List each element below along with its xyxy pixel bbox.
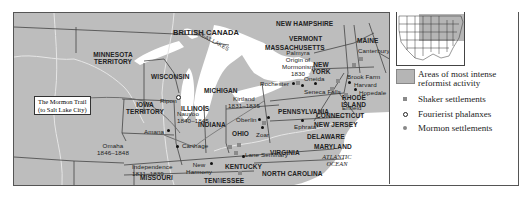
label-seneca-falls: Seneca Falls (304, 88, 341, 95)
mormon-marker (267, 116, 270, 119)
marker (242, 155, 245, 158)
mormon-marker (301, 84, 304, 87)
shaker-marker (352, 63, 356, 67)
mormon-marker (176, 145, 179, 148)
gray-square-icon (403, 97, 407, 101)
label-carthage: Carthage (182, 142, 208, 149)
label-ripon: Ripon (160, 97, 177, 104)
label-enfield: Enfield (342, 104, 362, 111)
label-tennessee: TENNESSEE (204, 177, 244, 184)
label-lane-seminary: Lane Seminary (245, 151, 288, 158)
label-vermont: VERMONT (289, 35, 322, 42)
marker (210, 162, 213, 165)
label-brook-farm: Brook Farm (347, 73, 380, 80)
label-independence: Independence 1831–1839 (132, 163, 172, 177)
shaker-marker (237, 143, 241, 147)
label-oberlin: Oberlin (236, 116, 257, 123)
shaker-marker (296, 81, 300, 85)
legend-panel: Areas of most intense reformist activity… (389, 12, 518, 184)
inset-us-map (396, 12, 465, 66)
gray-dot-icon (403, 126, 407, 130)
open-circle-icon (403, 112, 408, 117)
label-new-hampshire: NEW HAMPSHIRE (276, 20, 333, 27)
label-north-carolina: NORTH CAROLINA (262, 170, 323, 177)
shaded-area-swatch-icon (396, 69, 415, 84)
marker (354, 88, 357, 91)
label-maryland: MARYLAND (314, 143, 352, 150)
marker (261, 126, 264, 129)
shaker-marker (330, 87, 334, 91)
marker (258, 118, 261, 121)
label-omaha: Omaha 1846–1848 (96, 142, 130, 156)
fourierist-marker (348, 81, 351, 84)
shaker-marker (238, 171, 242, 175)
label-kentucky: KENTUCKY (225, 163, 262, 170)
us-inset-svg (397, 12, 464, 65)
label-delaware: DELAWARE (307, 133, 345, 140)
label-kirtland: Kirtland 1831–1835 (226, 95, 262, 109)
shaker-marker (262, 121, 266, 125)
mormon-marker (314, 82, 317, 85)
fourierist-marker (176, 95, 181, 100)
label-harvard: Harvard (354, 81, 377, 88)
label-zoar: Zoar (256, 131, 269, 138)
label-ohio: OHIO (232, 130, 249, 137)
label-hopedale: Hopedale (359, 89, 386, 96)
label-arkansas: ARKANSAS (139, 184, 177, 186)
label-amana: Amana (144, 128, 164, 135)
label-new-jersey: NEW JERSEY (314, 121, 358, 128)
marker (301, 119, 304, 122)
shaker-marker (336, 79, 340, 83)
shaker-marker (234, 151, 238, 155)
label-wisconsin: WISCONSIN (151, 73, 189, 80)
marker (167, 129, 170, 132)
label-minnesota-territory: MINNESOTA TERRITORY (90, 51, 136, 65)
shaker-marker (228, 145, 232, 149)
mormon-trail-callout: The Mormon Trail (to Salt Lake City) (34, 96, 91, 115)
shaker-marker (217, 179, 221, 183)
mormon-marker (292, 82, 295, 85)
label-new-harmony: New Harmony (186, 161, 212, 175)
shaker-marker (359, 57, 363, 61)
label-atlantic-ocean: ATLANTIC OCEAN (316, 153, 358, 167)
shaker-marker (344, 93, 348, 97)
label-michigan: MICHIGAN (204, 87, 238, 94)
label-canterbury: Canterbury (358, 47, 390, 54)
label-ephrata: Ephrata (294, 123, 316, 130)
label-palmyra: Palmyra Origin of Mormonism 1830 (282, 49, 314, 77)
label-rochester: Rochester (260, 80, 289, 87)
label-maine: MAINE (357, 37, 378, 44)
label-connecticut: CONNECTICUT (316, 112, 364, 119)
label-nauvoo: Nauvoo 1840–1845 (177, 110, 215, 124)
label-oneida: Oneida (304, 75, 325, 82)
